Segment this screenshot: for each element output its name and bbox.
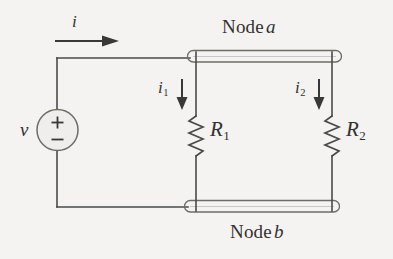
node-a-prefix: Node: [222, 16, 264, 37]
node-b-bar: [185, 201, 340, 213]
resistor-r2-subscript: 2: [359, 128, 366, 143]
arrow-down-icon-i2: [314, 79, 325, 110]
node-b-label: Nodeb: [230, 222, 284, 241]
node-a-name: a: [264, 16, 276, 37]
circuit-diagram-figure: Nodea Nodeb v R1 R2 i i1 i2: [0, 0, 393, 259]
resistor-r1-symbol: R: [210, 117, 223, 141]
voltage-source-circle-icon: [37, 110, 78, 151]
current-i-label: i: [72, 13, 77, 30]
resistor-r2-label: R2: [346, 119, 366, 142]
resistor-r2-zigzag: [325, 116, 339, 156]
current-i1-subscript: 1: [163, 87, 169, 98]
node-b-name: b: [272, 221, 284, 242]
current-i1-label: i1: [158, 79, 169, 98]
resistor-r1-label: R1: [210, 119, 230, 142]
current-i2-label: i2: [295, 79, 306, 98]
circuit-schematic-svg: [0, 0, 393, 259]
node-a-label: Nodea: [222, 17, 276, 36]
arrow-down-icon-i1: [177, 79, 188, 110]
current-i2-subscript: 2: [300, 87, 306, 98]
source-voltage-label: v: [20, 120, 28, 139]
arrow-right-icon: [55, 36, 119, 47]
resistor-r1-subscript: 1: [223, 128, 230, 143]
resistor-r2-symbol: R: [346, 117, 359, 141]
node-b-prefix: Node: [230, 221, 272, 242]
resistor-r1-zigzag: [189, 116, 203, 156]
node-a-bar: [188, 51, 342, 63]
